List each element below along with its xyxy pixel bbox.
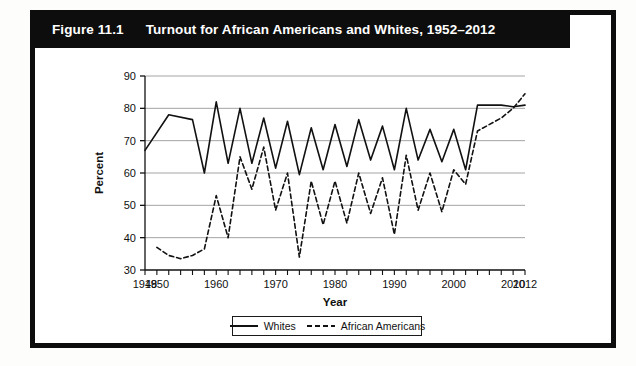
legend-item-whites: Whites <box>229 320 296 332</box>
y-tick-label: 90 <box>124 70 136 82</box>
chart-legend: Whites African Americans <box>232 316 422 336</box>
series-line-african-americans <box>157 94 525 259</box>
figure-title-banner: Figure 11.1 Turnout for African American… <box>30 10 570 48</box>
series-line-whites <box>145 102 525 175</box>
x-tick-label: 2012 <box>513 278 537 290</box>
x-tick-label: 1980 <box>323 278 347 290</box>
y-tick-label: 70 <box>124 135 136 147</box>
figure-number: Figure 11.1 <box>52 22 124 37</box>
x-axis-tick-labels: 194819501960197019801990200020102012 <box>133 278 537 290</box>
legend-label-whites: Whites <box>264 320 296 332</box>
x-axis-ticks <box>145 270 525 275</box>
x-tick-label: 1960 <box>204 278 228 290</box>
legend-swatch-solid <box>229 321 259 331</box>
x-axis-label: Year <box>323 296 348 308</box>
y-tick-label: 30 <box>124 264 136 276</box>
y-tick-label: 80 <box>124 102 136 114</box>
y-axis-tick-labels: 30405060708090 <box>124 70 136 276</box>
y-tick-label: 60 <box>124 167 136 179</box>
legend-item-african-americans: African Americans <box>306 320 426 332</box>
figure-container: Figure 11.1 Turnout for African American… <box>0 0 636 366</box>
chart-series-lines <box>145 94 525 259</box>
y-tick-label: 50 <box>124 199 136 211</box>
x-tick-label: 1970 <box>263 278 287 290</box>
legend-label-african-americans: African Americans <box>341 320 426 332</box>
x-tick-label: 1990 <box>382 278 406 290</box>
y-axis-label: Percent <box>93 152 105 194</box>
turnout-line-chart: 194819501960197019801990200020102012 304… <box>30 48 616 348</box>
x-tick-label: 1950 <box>145 278 169 290</box>
x-tick-label: 2000 <box>442 278 466 290</box>
chart-plot-area: 194819501960197019801990200020102012 304… <box>30 48 616 348</box>
legend-swatch-dashed <box>306 321 336 331</box>
y-tick-label: 40 <box>124 232 136 244</box>
page-title: Turnout for African Americans and Whites… <box>146 22 496 37</box>
y-axis-ticks <box>140 76 145 270</box>
